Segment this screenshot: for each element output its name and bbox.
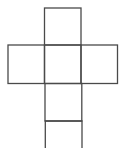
center-face — [45, 45, 82, 84]
right-face — [81, 45, 118, 84]
bottom-open-face — [45, 121, 82, 148]
left-face — [8, 45, 45, 84]
top-face — [45, 8, 82, 45]
faces-group — [8, 8, 118, 121]
open-bottom-group — [45, 121, 82, 148]
lower-face — [45, 84, 82, 122]
cube-net-diagram — [0, 0, 119, 148]
